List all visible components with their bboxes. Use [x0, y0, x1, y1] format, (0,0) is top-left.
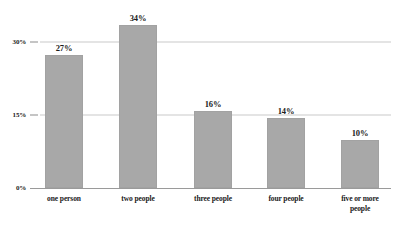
bar-one-person: [45, 55, 83, 188]
bar-three-people: [194, 111, 232, 188]
bar-value-five-or-more: 10%: [341, 129, 379, 138]
x-axis-label-four-people: four people: [255, 194, 317, 204]
bar-value-one-person: 27%: [45, 44, 83, 53]
y-axis-tick-label-0: 0%: [0, 185, 26, 192]
bar-four-people: [267, 118, 305, 188]
bar-two-people: [119, 25, 157, 188]
bar-five-or-more: [341, 140, 379, 188]
bar-value-two-people: 34%: [119, 14, 157, 23]
x-axis-label-three-people: three people: [182, 194, 244, 204]
y-axis-tick-dash-15: [30, 115, 38, 116]
bar-value-three-people: 16%: [194, 100, 232, 109]
x-axis-baseline: [30, 188, 391, 189]
y-axis-tick-dash-30: [30, 42, 38, 43]
bar-value-four-people: 14%: [267, 107, 305, 116]
x-axis-label-one-person: one person: [33, 194, 95, 204]
gridline-30: [40, 42, 391, 43]
x-axis-label-five-or-more: five or more people: [333, 194, 387, 214]
y-axis-tick-label-30: 30%: [0, 39, 26, 46]
bar-chart: 30% 15% 0% 27% 34% 16% 14% 10% one perso…: [0, 0, 400, 230]
x-axis-label-two-people: two people: [107, 194, 169, 204]
y-axis-tick-label-15: 15%: [0, 112, 26, 119]
